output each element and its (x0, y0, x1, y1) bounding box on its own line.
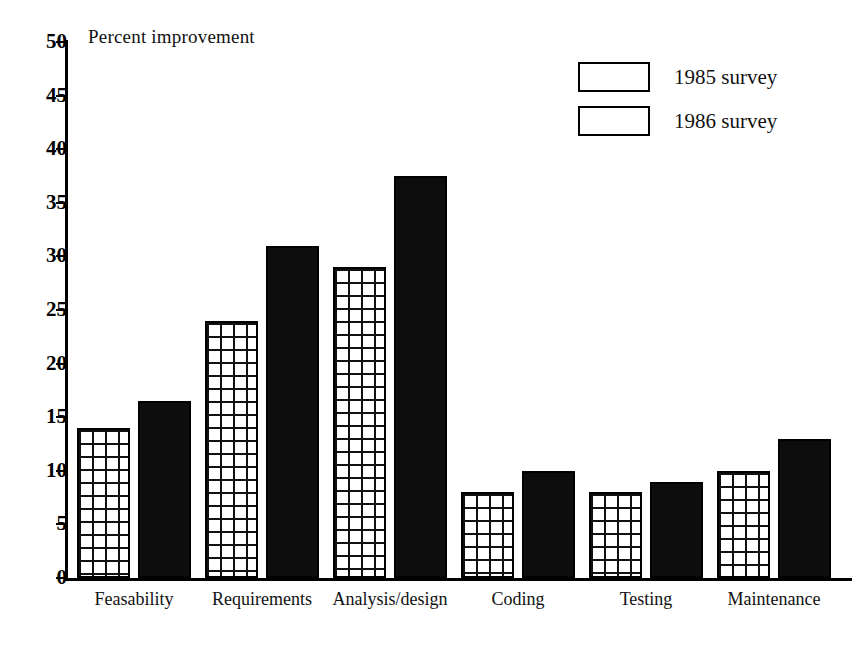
y-tick-label: 10 (23, 460, 67, 481)
legend-swatch-1985-icon (578, 62, 650, 92)
y-tick-label: 40 (23, 138, 67, 159)
bar-feasability-1985 (77, 428, 130, 578)
y-tick-label: 5 (23, 513, 67, 534)
x-axis-line (65, 578, 852, 581)
bar-coding-1985 (461, 492, 514, 578)
y-tick-label: 20 (23, 353, 67, 374)
y-tick-label: 45 (23, 85, 67, 106)
legend-swatch-1986-icon (578, 106, 650, 136)
legend-label-1985: 1985 survey (674, 62, 777, 92)
bar-maintenance-1985 (717, 471, 770, 578)
x-axis-label-maintenance: Maintenance (697, 589, 851, 610)
bar-analysis-design-1986 (394, 176, 447, 578)
bar-requirements-1986 (266, 246, 319, 578)
bar-chart: Percent improvement 50454035302520151050… (0, 0, 862, 646)
y-tick-label: 15 (23, 406, 67, 427)
y-tick-label: 25 (23, 299, 67, 320)
bar-coding-1986 (522, 471, 575, 578)
legend-label-1986: 1986 survey (674, 106, 777, 136)
y-tick-label: 0 (23, 567, 67, 588)
bar-maintenance-1986 (778, 439, 831, 578)
y-tick-label: 50 (23, 31, 67, 52)
bar-testing-1985 (589, 492, 642, 578)
bar-analysis-design-1985 (333, 267, 386, 578)
bar-requirements-1985 (205, 321, 258, 578)
bar-feasability-1986 (138, 401, 191, 578)
y-tick-label: 35 (23, 192, 67, 213)
bar-testing-1986 (650, 482, 703, 578)
y-tick-label: 30 (23, 245, 67, 266)
